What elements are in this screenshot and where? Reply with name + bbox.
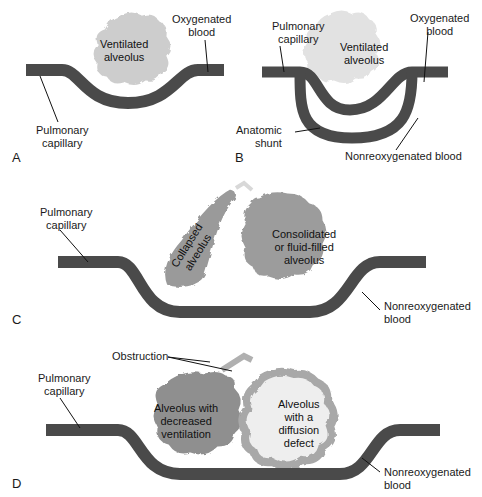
label-line: alveolus (340, 54, 388, 67)
label-ventilated-alveolus-b: Ventilated alveolus (340, 41, 388, 67)
label-ventilated-alveolus-a: Ventilated alveolus (100, 38, 148, 64)
airway-c (236, 183, 252, 190)
label-line: blood (384, 313, 471, 326)
label-line: Pulmonary (40, 206, 93, 219)
label-oxygenated-blood-a: Oxygenated blood (172, 13, 231, 39)
label-pulmonary-capillary-a: Pulmonary capillary (36, 124, 89, 150)
label-line: blood (384, 479, 471, 492)
label-line: Pulmonary (272, 20, 325, 33)
label-nonreoxygenated-blood-c: Nonreoxygenated blood (384, 300, 471, 326)
label-line: Nonreoxygenated (384, 300, 471, 313)
label-line: Oxygenated (410, 12, 469, 25)
label-line: with a (278, 411, 320, 424)
label-decreased-ventilation-alveolus: Alveolus with decreased ventilation (154, 402, 218, 441)
leader-nonreoxygenated-c (362, 292, 380, 310)
label-line: Ventilated (100, 38, 148, 51)
label-line: defect (278, 437, 320, 450)
label-line: alveolus (100, 51, 148, 64)
label-anatomic-shunt-b: Anatomic shunt (236, 124, 282, 150)
label-line: Alveolus (278, 398, 320, 411)
label-line: Pulmonary (36, 124, 89, 137)
label-line: Anatomic (236, 124, 282, 137)
label-line: Consolidated (272, 228, 336, 241)
label-line: capillary (40, 219, 93, 232)
label-line: or fluid-filled (272, 241, 336, 254)
leader-capillary-a (40, 76, 58, 122)
panel-d (46, 356, 440, 474)
label-nonreoxygenated-blood-b: Nonreoxygenated blood (345, 150, 462, 163)
panel-c (58, 183, 426, 312)
label-line: capillary (36, 137, 89, 150)
label-line: capillary (272, 33, 325, 46)
label-line: Alveolus with (154, 402, 218, 415)
label-line: alveolus (272, 254, 336, 267)
label-oxygenated-blood-b: Oxygenated blood (410, 12, 469, 38)
capillary-c (58, 262, 426, 312)
label-line: capillary (38, 385, 91, 398)
panel-letter-d: D (12, 476, 21, 491)
panel-letter-a: A (12, 150, 21, 165)
label-line: shunt (236, 137, 282, 150)
diagram-artwork (0, 0, 482, 497)
label-consolidated-alveolus: Consolidated or fluid-filled alveolus (272, 228, 336, 267)
label-pulmonary-capillary-b: Pulmonary capillary (272, 20, 325, 46)
label-obstruction: Obstruction (112, 350, 168, 363)
label-line: blood (172, 26, 231, 39)
label-line: Pulmonary (38, 372, 91, 385)
label-line: decreased (154, 415, 218, 428)
label-line: Nonreoxygenated (384, 466, 471, 479)
label-diffusion-defect-alveolus: Alveolus with a diffusion defect (278, 398, 320, 450)
panel-letter-b: B (235, 150, 244, 165)
leader-capillary-d (60, 398, 80, 428)
panel-letter-c: C (12, 312, 21, 327)
label-line: ventilation (154, 428, 218, 441)
leader-obstruction-2 (168, 357, 232, 371)
label-line: Ventilated (340, 41, 388, 54)
label-line: Oxygenated (172, 13, 231, 26)
label-line: blood (410, 25, 469, 38)
label-pulmonary-capillary-c: Pulmonary capillary (40, 206, 93, 232)
obstruction-plug (222, 356, 252, 370)
label-pulmonary-capillary-d: Pulmonary capillary (38, 372, 91, 398)
label-nonreoxygenated-blood-d: Nonreoxygenated blood (384, 466, 471, 492)
label-line: diffusion (278, 424, 320, 437)
